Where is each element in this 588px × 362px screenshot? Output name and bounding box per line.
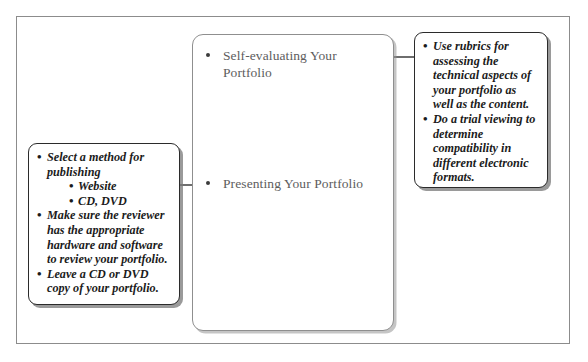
right-callout-list: • Use rubrics for assessing the technica… (423, 39, 539, 185)
bullet-icon (206, 53, 217, 57)
left-callout: • Select a method for publishing • Websi… (28, 143, 180, 305)
center-item-presenting: Presenting Your Portfolio (206, 175, 386, 192)
list-item: • Website (69, 179, 171, 194)
bullet-icon: • (37, 267, 42, 282)
list-item: • Do a trial viewing to determine compat… (423, 112, 539, 185)
bullet-icon: • (69, 179, 74, 194)
list-item-text: Use rubrics for assessing the technical … (433, 39, 539, 112)
bullet-icon: • (37, 208, 42, 223)
list-item: • Select a method for publishing • Websi… (37, 150, 171, 208)
left-callout-list: • Select a method for publishing • Websi… (37, 150, 171, 296)
bullet-icon (206, 181, 217, 185)
list-item: • Make sure the reviewer has the appropr… (37, 208, 171, 266)
list-item-text: Do a trial viewing to determine compatib… (433, 112, 539, 185)
bullet-icon: • (37, 150, 42, 165)
bullet-icon: • (423, 39, 428, 54)
bullet-icon: • (69, 194, 74, 209)
list-item: • Leave a CD or DVD copy of your portfol… (37, 267, 171, 296)
list-item: • CD, DVD (69, 194, 171, 209)
list-item-text: CD, DVD (78, 194, 171, 209)
center-item-self-evaluating: Self-evaluating Your Portfolio (206, 47, 381, 81)
center-topic-box: Self-evaluating Your Portfolio Presentin… (192, 34, 394, 331)
list-item-text: Leave a CD or DVD copy of your portfolio… (47, 267, 171, 296)
list-item-text: Website (78, 179, 171, 194)
list-item: • Use rubrics for assessing the technica… (423, 39, 539, 112)
left-callout-sublist: • Website • CD, DVD (69, 179, 171, 208)
diagram-canvas: Self-evaluating Your Portfolio Presentin… (0, 0, 588, 362)
bullet-icon: • (423, 112, 428, 127)
center-item-label: Presenting Your Portfolio (223, 175, 363, 192)
list-item-text: Select a method for publishing (47, 150, 171, 179)
right-callout: • Use rubrics for assessing the technica… (414, 32, 548, 188)
center-item-label: Self-evaluating Your Portfolio (223, 47, 381, 81)
list-item-text: Make sure the reviewer has the appropria… (47, 208, 171, 266)
